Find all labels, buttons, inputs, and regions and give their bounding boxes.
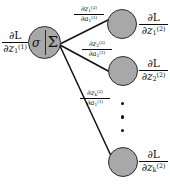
target-node-2-label: ∂L ∂z2(2) [139,58,168,83]
target-node-k-numerator: ∂L [139,149,168,161]
edge-label-1: ∂z1(2) ∂a1(1) [74,6,104,23]
incoming-gradient-label: ∂L ∂z1(1) [2,30,28,55]
target-node-1[interactable] [107,9,137,39]
ellipsis-dot [121,129,124,132]
target-node-k-denominator: ∂zk(2) [139,161,168,175]
target-node-1-label: ∂L ∂z1(2) [139,12,168,37]
edge-label-1-numerator: ∂z1(2) [74,6,104,14]
target-node-2[interactable] [108,56,138,86]
vertical-ellipsis [120,102,125,132]
incoming-gradient-denominator: ∂z1(1) [2,42,28,56]
edge-label-2-numerator: ∂z2(2) [82,41,112,49]
edge-label-1-denominator: ∂a1(1) [74,14,104,23]
incoming-gradient-numerator: ∂L [2,30,28,42]
target-node-1-denominator: ∂z1(2) [139,24,168,38]
neuron-divider [45,30,46,55]
target-node-1-numerator: ∂L [139,12,168,24]
summation-sigma-symbol: Σ [47,35,58,50]
edge-label-2-denominator: ∂a1(1) [82,49,112,58]
source-neuron[interactable]: σ Σ [28,26,61,59]
target-node-k[interactable] [108,147,138,177]
target-node-2-denominator: ∂z2(2) [139,70,168,84]
activation-sigma-symbol: σ [32,37,40,49]
edge-label-k: ∂zk(2) ∂a1(1) [80,90,110,107]
target-node-k-label: ∂L ∂zk(2) [139,149,168,174]
target-node-2-numerator: ∂L [139,58,168,70]
ellipsis-dot [121,102,124,105]
edge-label-k-numerator: ∂zk(2) [80,90,110,98]
ellipsis-dot [121,115,124,118]
edge-label-2: ∂z2(2) ∂a1(1) [82,41,112,58]
edge-label-k-denominator: ∂a1(1) [80,98,110,107]
diagram-canvas: ∂L ∂z1(1) σ Σ ∂z1(2) ∂a1(1) ∂z2(2) ∂a1(1… [0,0,170,189]
